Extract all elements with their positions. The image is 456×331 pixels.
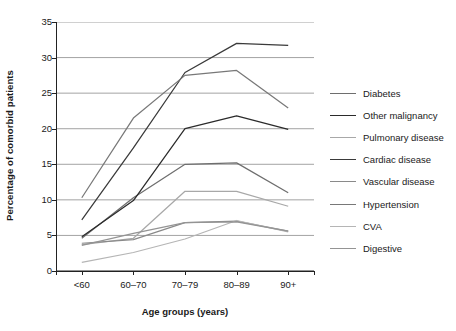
y-tick-label: 5: [18, 231, 52, 241]
chart-legend: DiabetesOther malignancyPulmonary diseas…: [330, 82, 456, 260]
legend-item-cva[interactable]: CVA: [330, 215, 456, 237]
y-tick-mark: [52, 58, 56, 59]
legend-line-swatch: [330, 248, 356, 249]
y-tick-label: 15: [18, 160, 52, 170]
y-tick-mark: [52, 164, 56, 165]
legend-line-swatch: [330, 181, 356, 182]
legend-item-label: Other malignancy: [363, 110, 437, 121]
legend-item-cardiac-disease[interactable]: Cardiac disease: [330, 149, 456, 171]
legend-item-hypertension[interactable]: Hypertension: [330, 193, 456, 215]
y-tick-label: 25: [18, 88, 52, 98]
x-tick-label: <60: [74, 280, 90, 290]
legend-item-label: Digestive: [363, 243, 402, 254]
x-axis-title: Age groups (years): [56, 306, 314, 317]
legend-item-label: CVA: [363, 221, 382, 232]
legend-line-swatch: [330, 159, 356, 160]
y-tick-mark: [52, 235, 56, 236]
legend-line-swatch: [330, 226, 356, 227]
y-tick-mark: [52, 93, 56, 94]
legend-item-other-malignancy[interactable]: Other malignancy: [330, 104, 456, 126]
y-tick-mark: [52, 22, 56, 23]
line-chart-figure: Percentage of comorbid patients 05101520…: [0, 0, 456, 331]
legend-line-swatch: [330, 115, 356, 116]
legend-item-digestive[interactable]: Digestive: [330, 237, 456, 259]
y-axis-title-text: Percentage of comorbid patients: [4, 70, 15, 221]
legend-item-label: Diabetes: [363, 88, 401, 99]
x-axis-endcap: [314, 271, 315, 275]
y-tick-label: 20: [18, 124, 52, 134]
y-tick-label: 0: [18, 266, 52, 276]
legend-item-vascular-disease[interactable]: Vascular disease: [330, 171, 456, 193]
series-line-cardiac-disease: [82, 43, 288, 219]
x-tick-label: 80–89: [223, 280, 249, 290]
plot-svg: [56, 22, 314, 271]
x-axis-spine: [56, 271, 314, 272]
legend-item-diabetes[interactable]: Diabetes: [330, 82, 456, 104]
y-tick-label: 35: [18, 17, 52, 27]
series-line-digestive: [82, 222, 288, 245]
legend-item-label: Cardiac disease: [363, 154, 431, 165]
plot-area: [56, 22, 314, 271]
x-tick-label: 90+: [280, 280, 296, 290]
y-tick-mark: [52, 200, 56, 201]
y-axis-tick-labels: 05101520253035: [18, 0, 52, 331]
y-tick-label: 30: [18, 53, 52, 63]
legend-line-swatch: [330, 93, 356, 94]
legend-line-swatch: [330, 204, 356, 205]
legend-line-swatch: [330, 137, 356, 138]
series-line-diabetes: [82, 163, 288, 238]
x-tick-label: 70–79: [172, 280, 198, 290]
legend-item-label: Pulmonary disease: [363, 132, 444, 143]
y-axis-title: Percentage of comorbid patients: [0, 0, 18, 290]
series-line-hypertension: [82, 70, 288, 197]
y-tick-label: 10: [18, 195, 52, 205]
legend-item-label: Vascular disease: [363, 176, 435, 187]
legend-item-label: Hypertension: [363, 199, 419, 210]
legend-item-pulmonary-disease[interactable]: Pulmonary disease: [330, 126, 456, 148]
x-tick-label: 60–70: [120, 280, 146, 290]
y-tick-mark: [52, 129, 56, 130]
series-line-pulmonary-disease: [82, 191, 288, 244]
